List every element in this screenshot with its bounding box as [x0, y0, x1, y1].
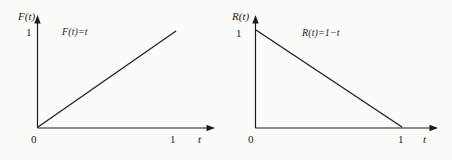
- left-origin-label: 0: [31, 134, 37, 145]
- right-y-axis-arrowhead: [252, 15, 258, 24]
- right-data-line-decreasing: [256, 30, 402, 127]
- right-y-axis-label: R(t): [232, 11, 249, 22]
- right-equation-annotation: R(t)=1−t: [302, 28, 340, 38]
- chart-panel-left-cdf: F(t) 1 0 1 t F(t)=t: [0, 0, 226, 160]
- left-data-line-increasing: [38, 31, 176, 127]
- right-chart-canvas: [226, 0, 452, 160]
- left-x-axis-label: t: [198, 134, 201, 145]
- left-y-axis-label: F(t): [18, 11, 35, 22]
- left-equation-annotation: F(t)=t: [62, 27, 88, 37]
- right-origin-label: 0: [248, 134, 254, 145]
- right-y-tick-label-one: 1: [236, 28, 242, 39]
- right-x-tick-label-one: 1: [398, 134, 404, 145]
- left-x-tick-label-one: 1: [170, 134, 176, 145]
- right-x-axis-label: t: [423, 134, 426, 145]
- right-x-axis-arrowhead: [430, 125, 439, 131]
- left-x-axis-arrowhead: [207, 125, 216, 131]
- chart-panel-right-reliability: R(t) 1 0 1 t R(t)=1−t: [226, 0, 452, 160]
- figure-two-panel-cdf-reliability: F(t) 1 0 1 t F(t)=t R(t) 1 0 1 t R(t)=1−…: [0, 0, 452, 160]
- left-y-tick-label-one: 1: [26, 27, 32, 38]
- left-y-axis-arrowhead: [34, 15, 40, 24]
